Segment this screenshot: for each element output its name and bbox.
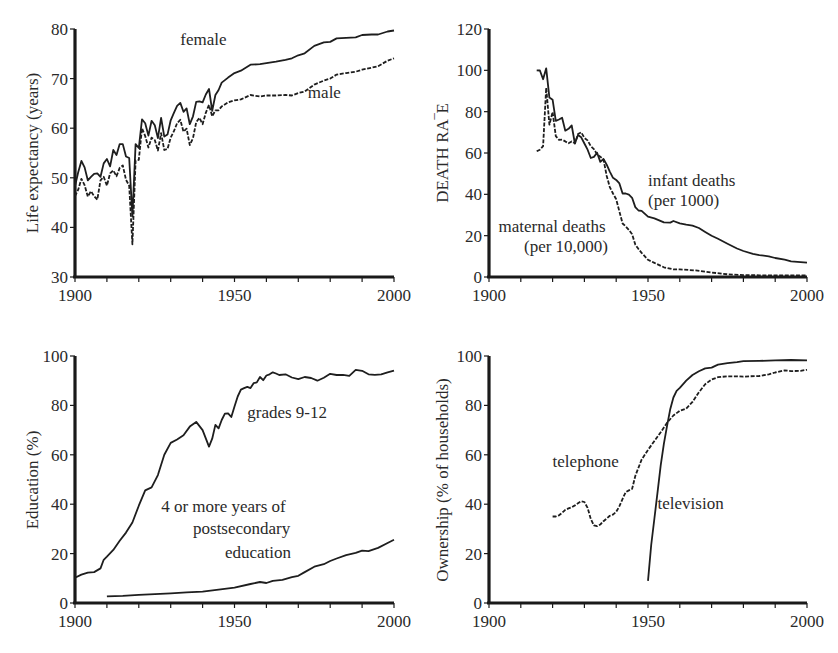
x-tick-label: 1950 [631, 286, 665, 305]
annotation-label: telephone [553, 452, 619, 471]
y-tick-label: 100 [457, 347, 483, 366]
series-line-female [75, 31, 394, 217]
annotation-label: maternal deaths [499, 217, 606, 236]
y-tick-label: 80 [51, 396, 68, 415]
y-axis-title: Education (%) [23, 431, 42, 530]
x-tick-label: 2000 [377, 612, 411, 631]
y-tick-label: 100 [43, 347, 69, 366]
y-tick-label: 80 [465, 103, 482, 122]
y-tick-label: 20 [51, 545, 68, 564]
y-tick-label: 80 [465, 396, 482, 415]
y-tick-label: 60 [51, 119, 68, 138]
x-tick-label: 1950 [218, 286, 252, 305]
x-tick-label: 1950 [218, 612, 252, 631]
annotation-label: infant deaths [648, 171, 735, 190]
y-tick-label: 120 [457, 20, 483, 39]
x-tick-label: 1900 [472, 286, 506, 305]
y-tick-label: 30 [51, 268, 68, 287]
y-axis-title: DEATH RA‾E [433, 103, 452, 203]
annotation-label: female [180, 30, 226, 49]
y-axis-title: Life expectancy (years) [23, 73, 42, 233]
x-tick-label: 2000 [790, 612, 824, 631]
x-tick-label: 1900 [58, 612, 92, 631]
y-tick-label: 70 [51, 70, 68, 89]
y-tick-label: 20 [465, 227, 482, 246]
y-tick-label: 60 [465, 144, 482, 163]
annotation-label: grades 9-12 [247, 403, 327, 422]
y-tick-label: 40 [51, 495, 68, 514]
y-tick-label: 100 [457, 61, 483, 80]
education-chart: 190019502000020406080100Education (%)gra… [23, 347, 411, 631]
x-tick-label: 1950 [631, 612, 665, 631]
ownership-chart: 190019502000020406080100Ownership (% of … [433, 347, 824, 631]
annotation-label: male [308, 83, 341, 102]
death-rate-chart: 190019502000020406080100120DEATH RA‾Einf… [433, 20, 824, 305]
annotation-label: education [225, 543, 292, 562]
annotation-label: (per 1000) [648, 191, 719, 210]
y-tick-label: 0 [474, 268, 483, 287]
y-tick-label: 60 [51, 446, 68, 465]
y-tick-label: 40 [465, 495, 482, 514]
x-tick-label: 1900 [58, 286, 92, 305]
annotation-label: 4 or more years of [161, 497, 286, 516]
y-tick-label: 50 [51, 169, 68, 188]
y-tick-label: 80 [51, 20, 68, 39]
x-tick-label: 2000 [790, 286, 824, 305]
series-line-television [648, 360, 807, 581]
x-tick-label: 1900 [472, 612, 506, 631]
series-line-male [75, 58, 394, 244]
annotation-label: (per 10,000) [524, 237, 608, 256]
y-tick-label: 0 [60, 594, 69, 613]
y-axis-title: Ownership (% of households) [433, 378, 452, 582]
life-expectancy-chart: 190019502000304050607080Life expectancy … [23, 20, 411, 305]
y-tick-label: 40 [51, 218, 68, 237]
y-tick-label: 40 [465, 185, 482, 204]
annotation-label: postsecondary [193, 519, 291, 538]
y-tick-label: 60 [465, 446, 482, 465]
chart-figure: 190019502000304050607080Life expectancy … [0, 0, 838, 653]
y-tick-label: 0 [474, 594, 483, 613]
annotation-label: television [658, 494, 725, 513]
x-tick-label: 2000 [377, 286, 411, 305]
y-tick-label: 20 [465, 545, 482, 564]
